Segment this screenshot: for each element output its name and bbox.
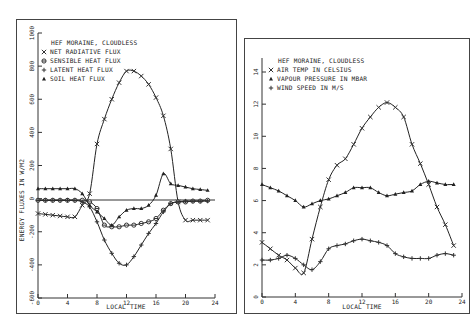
x-tick-label: 20 bbox=[182, 299, 190, 306]
legend-label: WIND SPEED IN M/S bbox=[277, 84, 344, 91]
series-vapour-pressure-in-mbar bbox=[260, 179, 456, 208]
triangle-marker-icon bbox=[154, 193, 158, 197]
right-y-ticks: 14121086420 bbox=[252, 68, 266, 299]
y-tick-label: 12 bbox=[252, 100, 259, 108]
legend-label: AIR TEMP IN CELSIUS bbox=[277, 66, 352, 73]
series-line bbox=[262, 181, 454, 207]
y-tick-label: 800 bbox=[28, 60, 35, 71]
x-tick-label: 24 bbox=[211, 299, 219, 306]
triangle-marker-icon bbox=[260, 182, 264, 186]
right-x-axis-label: LOCAL TIME bbox=[342, 303, 381, 310]
x-tick-label: 0 bbox=[260, 298, 264, 305]
x-tick-label: 8 bbox=[95, 299, 99, 306]
x-tick-label: 20 bbox=[425, 298, 433, 305]
right-legend: HEF MORAINE, CLOUDLESS AIR TEMP IN CELSI… bbox=[269, 57, 368, 91]
y-tick-label: 10 bbox=[252, 132, 259, 140]
left-y-ticks: 10008006004002000-200-400-600 bbox=[28, 25, 42, 305]
y-tick-label: 400 bbox=[28, 127, 35, 138]
legend-label: SENSIBLE HEAT FLUX bbox=[50, 57, 121, 64]
x-tick-label: 0 bbox=[36, 299, 40, 306]
series-line bbox=[38, 70, 208, 221]
y-tick-label: 6 bbox=[252, 198, 259, 202]
x-tick-label: 4 bbox=[66, 299, 70, 306]
series-wind-speed-in-m-s bbox=[260, 237, 456, 272]
charts-canvas: 10008006004002000-200-400-600 0481216202… bbox=[0, 0, 474, 330]
y-tick-label: 0 bbox=[28, 196, 35, 200]
left-x-axis-label: LOCAL TIME bbox=[106, 303, 145, 310]
left-series-group bbox=[36, 69, 210, 267]
series-line bbox=[38, 174, 208, 226]
y-tick-label: 14 bbox=[252, 68, 259, 76]
right-chart: 14121086420 04812162024 LOCAL TIME HEF M… bbox=[252, 57, 466, 310]
right-chart-title: HEF MORAINE, CLOUDLESS bbox=[278, 57, 364, 64]
y-tick-label: 600 bbox=[28, 93, 35, 104]
left-y-axis-label: ENERGY FLUXES IN W/M2 bbox=[18, 159, 25, 242]
y-tick-label: -400 bbox=[28, 257, 35, 272]
y-tick-label: 200 bbox=[28, 160, 35, 171]
series-line bbox=[38, 200, 208, 265]
legend-label: SOIL HEAT FLUX bbox=[50, 75, 105, 82]
triangle-marker-icon bbox=[42, 77, 46, 81]
y-tick-label: 8 bbox=[252, 166, 259, 170]
left-chart-title: HEF MORAINE, CLOUDLESS bbox=[51, 39, 137, 46]
legend-label: LATENT HEAT FLUX bbox=[50, 66, 113, 73]
triangle-marker-icon bbox=[269, 77, 273, 81]
x-tick-label: 24 bbox=[458, 298, 466, 305]
y-tick-label: 1000 bbox=[28, 25, 35, 40]
y-tick-label: 0 bbox=[252, 295, 259, 299]
y-tick-label: -200 bbox=[28, 224, 35, 239]
left-chart: 10008006004002000-200-400-600 0481216202… bbox=[18, 25, 219, 310]
x-tick-label: 4 bbox=[294, 298, 298, 305]
series-latent-heat-flux bbox=[36, 198, 210, 267]
series-line bbox=[262, 103, 454, 275]
legend-label: NET RADIATIVE FLUX bbox=[50, 48, 121, 55]
right-series-group bbox=[260, 100, 456, 275]
y-tick-label: -600 bbox=[28, 290, 35, 305]
y-tick-label: 4 bbox=[252, 231, 259, 235]
y-tick-label: 2 bbox=[252, 263, 259, 267]
x-tick-label: 8 bbox=[327, 298, 331, 305]
x-tick-label: 16 bbox=[152, 299, 160, 306]
series-line bbox=[262, 239, 454, 270]
legend-label: VAPOUR PRESSURE IN MBAR bbox=[277, 75, 367, 82]
x-tick-label: 16 bbox=[392, 298, 400, 305]
